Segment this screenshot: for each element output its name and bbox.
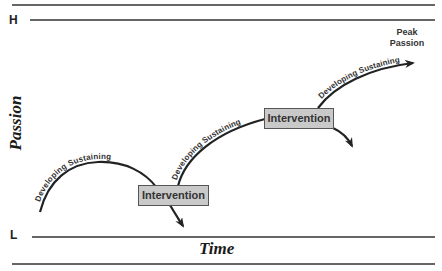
peak-label-line2: Passion [382,38,432,49]
drop-arrow-1 [170,205,183,226]
peak-label-line1: Peak [382,27,432,38]
y-low-label: L [10,228,17,242]
intervention-box-2: Intervention [264,108,334,129]
arc-2-labels: Developing Sustaining [170,117,242,181]
drop-arrow-2 [333,128,352,146]
y-high-label: H [9,13,18,27]
passion-over-time-diagram: Developing Sustaining Developing Sustain… [0,0,442,271]
y-axis-title: Passion [6,93,26,153]
intervention-box-1: Intervention [138,185,209,206]
peak-passion-label: Peak Passion [382,27,432,49]
x-axis-title: Time [199,239,234,259]
diagram-graphics: Developing Sustaining Developing Sustain… [0,0,442,271]
